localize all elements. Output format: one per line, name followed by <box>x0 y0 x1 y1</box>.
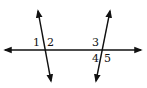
angle-label-2: 2 <box>47 36 54 49</box>
angle-label-1: 1 <box>33 36 40 49</box>
angle-label-4: 4 <box>92 52 99 65</box>
angle-label-3: 3 <box>92 36 99 49</box>
angle-label-5: 5 <box>104 52 111 65</box>
parallel-lines-diagram: 1 2 3 4 5 <box>0 0 147 88</box>
